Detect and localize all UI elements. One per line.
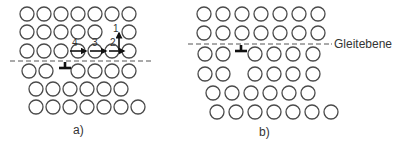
atom-circle: [46, 100, 60, 114]
atom-circle: [273, 7, 287, 21]
arrow-step-label: 4: [72, 37, 78, 48]
atom-circle: [122, 25, 136, 39]
atom-circle: [282, 86, 296, 100]
atom-circle: [114, 100, 128, 114]
atom-circle: [122, 64, 136, 78]
arrow-step-label: 2: [110, 37, 116, 48]
atom-circle: [39, 64, 53, 78]
atom-circle: [97, 100, 111, 114]
atom-circle: [206, 86, 220, 100]
atom-circle: [248, 105, 262, 119]
dislocation-diagram: 4321: [0, 0, 405, 148]
panel-a: 4321: [10, 7, 152, 114]
atom-circle: [37, 25, 51, 39]
atom-circle: [22, 64, 36, 78]
atom-circle: [273, 26, 287, 40]
atom-circle: [63, 100, 77, 114]
atom-circle: [80, 100, 94, 114]
atom-circle: [29, 82, 43, 96]
atom-circle: [131, 100, 145, 114]
atom-circle: [54, 25, 68, 39]
caption-b: b): [259, 125, 270, 139]
glide-plane-label: Gleitebene: [334, 37, 392, 51]
atom-circle: [306, 67, 320, 81]
atom-circle: [71, 64, 85, 78]
edge-dislocation-icon: [59, 62, 71, 68]
atom-circle: [248, 47, 262, 61]
atom-circle: [197, 7, 211, 21]
atom-circle: [311, 7, 325, 21]
atom-circle: [216, 26, 230, 40]
atom-circle: [286, 67, 300, 81]
atom-circle: [37, 7, 51, 21]
atom-circle: [37, 44, 51, 58]
atom-circle: [198, 47, 212, 61]
atom-circle: [105, 64, 119, 78]
atom-circle: [20, 25, 34, 39]
atom-circle: [71, 7, 85, 21]
atom-circle: [46, 82, 60, 96]
atom-circle: [254, 26, 268, 40]
arrow-step-label: 3: [92, 37, 98, 48]
atom-circle: [198, 67, 212, 81]
atom-circle: [306, 47, 320, 61]
atom-circle: [292, 7, 306, 21]
edge-dislocation-icon: [235, 45, 247, 51]
atom-circle: [235, 7, 249, 21]
atom-circle: [54, 44, 68, 58]
atom-circle: [114, 82, 128, 96]
atom-circle: [97, 82, 111, 96]
atom-circle: [54, 7, 68, 21]
atom-circle: [20, 7, 34, 21]
atom-circle: [88, 64, 102, 78]
atom-circle: [244, 86, 258, 100]
atom-circle: [235, 26, 249, 40]
atom-circle: [88, 7, 102, 21]
atom-circle: [80, 82, 94, 96]
atom-circle: [229, 105, 243, 119]
atom-circle: [210, 105, 224, 119]
atom-circle: [197, 26, 211, 40]
atom-circle: [216, 47, 230, 61]
atom-circle: [63, 82, 77, 96]
arrow-step-label: 1: [113, 23, 119, 34]
atom-circle: [122, 7, 136, 21]
atom-circle: [267, 47, 281, 61]
atom-circle: [254, 7, 268, 21]
atom-circle: [248, 67, 262, 81]
panel-b: [188, 7, 338, 119]
atom-circle: [216, 7, 230, 21]
atom-circle: [292, 26, 306, 40]
caption-a: a): [73, 123, 84, 137]
atom-circle: [305, 105, 319, 119]
atom-circle: [216, 67, 230, 81]
atom-circle: [311, 26, 325, 40]
atom-circle: [263, 86, 277, 100]
atom-circle: [301, 86, 315, 100]
atom-circle: [286, 105, 300, 119]
dislocation-figure: 4321 a) b) Gleitebene: [0, 0, 405, 148]
atom-circle: [29, 100, 43, 114]
atom-circle: [20, 44, 34, 58]
atom-circle: [267, 67, 281, 81]
atom-circle: [225, 86, 239, 100]
atom-circle: [286, 47, 300, 61]
atom-circle: [105, 7, 119, 21]
atom-circle: [122, 44, 136, 58]
atom-circle: [267, 105, 281, 119]
atom-circle: [324, 105, 338, 119]
